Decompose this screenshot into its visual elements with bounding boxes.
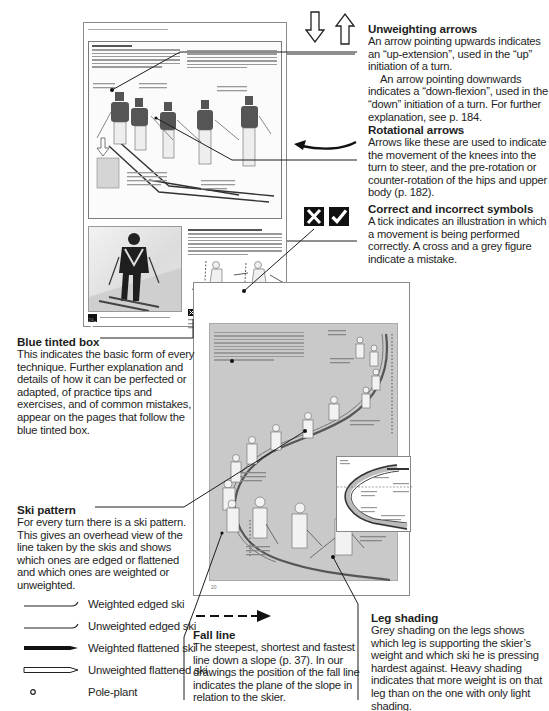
unweighted-edged-ski-icon — [22, 619, 80, 633]
annotation-text: Arrows like these are used to indicate t… — [368, 136, 548, 199]
cross-icon — [304, 207, 324, 226]
legend-label: Weighted edged ski — [88, 598, 184, 610]
skier-sequence-illustration — [89, 80, 283, 220]
legend-item-weighted-flattened: Weighted flattened ski — [22, 641, 80, 655]
annotation-title: Ski pattern — [17, 503, 192, 516]
fall-line-arrow-icon — [195, 609, 275, 623]
annotation-title: Correct and incorrect symbols — [368, 202, 548, 215]
grey-tinted-illustration-area — [209, 323, 398, 581]
photo-caption — [100, 317, 170, 320]
legend-item-unweighted-edged: Unweighted edged ski — [22, 619, 80, 633]
legend-label: Unweighted flattened ski — [88, 664, 207, 676]
annotation-fall-line: Fall line The steepest, shortest and fas… — [193, 628, 365, 704]
box-text-column-left — [92, 45, 180, 70]
tick-icon — [329, 207, 349, 226]
ski-pattern-diagram — [337, 457, 412, 533]
annotation-ski-pattern: Ski pattern For every turn there is a sk… — [17, 503, 192, 592]
skier-photo — [88, 226, 182, 312]
annotation-text: This indicates the basic form of every t… — [17, 348, 197, 436]
annotation-blue-tinted-box: Blue tinted box This indicates the basic… — [17, 335, 197, 436]
annotation-title: Unweighting arrows — [368, 22, 548, 35]
page-header-text — [88, 29, 168, 32]
annotation-text: An arrow pointing upwards indicates an “… — [368, 35, 548, 73]
sample-page-ski-pattern: 20 — [193, 282, 410, 596]
annotation-text: An arrow pointing downwards indicates a … — [368, 73, 548, 123]
ski-turn-sequence-illustration — [210, 324, 399, 582]
blue-tinted-box: The parallel turn — [88, 41, 282, 219]
page-number: 20 — [211, 584, 217, 590]
weighted-flattened-ski-icon — [22, 641, 80, 655]
unweighting-arrows-icon — [305, 10, 355, 46]
annotation-title: Rotational arrows — [368, 123, 548, 136]
annotation-text: Grey shading on the legs shows which leg… — [371, 624, 549, 711]
legend-label: Unweighted edged ski — [88, 620, 196, 632]
legend-label: Weighted flattened ski — [88, 642, 195, 654]
legend-item-weighted-edged: Weighted edged ski — [22, 597, 80, 611]
legend-item-unweighted-flattened: Unweighted flattened ski — [22, 663, 80, 677]
ski-pattern-inset — [336, 456, 411, 532]
unweighted-flattened-ski-icon — [22, 663, 80, 677]
right-column-text — [188, 229, 282, 257]
annotation-title: Fall line — [193, 628, 365, 641]
annotation-rotational-arrows: Rotational arrows Arrows like these are … — [368, 123, 548, 199]
legend-item-pole-plant: Pole-plant — [22, 685, 80, 699]
annotation-title: Leg shading — [371, 611, 549, 624]
skier-figure-illustration — [89, 227, 182, 312]
annotation-unweighting-arrows: Unweighting arrows An arrow pointing upw… — [368, 22, 548, 123]
annotation-text: The steepest, shortest and fastest line … — [193, 641, 365, 704]
rotational-arrow-icon — [292, 136, 362, 158]
annotation-text: A tick indicates an illustration in whic… — [368, 215, 548, 265]
box-text-column-right — [187, 50, 277, 70]
annotation-correct-incorrect: Correct and incorrect symbols A tick ind… — [368, 202, 548, 265]
annotation-text: For every turn there is a ski pattern. T… — [17, 516, 192, 592]
annotation-leg-shading: Leg shading Grey shading on the legs sho… — [371, 611, 549, 711]
legend-label: Pole-plant — [88, 686, 137, 698]
annotation-title: Blue tinted box — [17, 335, 197, 348]
weighted-edged-ski-icon — [22, 597, 80, 611]
page-number: 24 — [88, 317, 94, 323]
pole-plant-icon — [22, 685, 80, 699]
correct-incorrect-symbols — [304, 207, 349, 226]
